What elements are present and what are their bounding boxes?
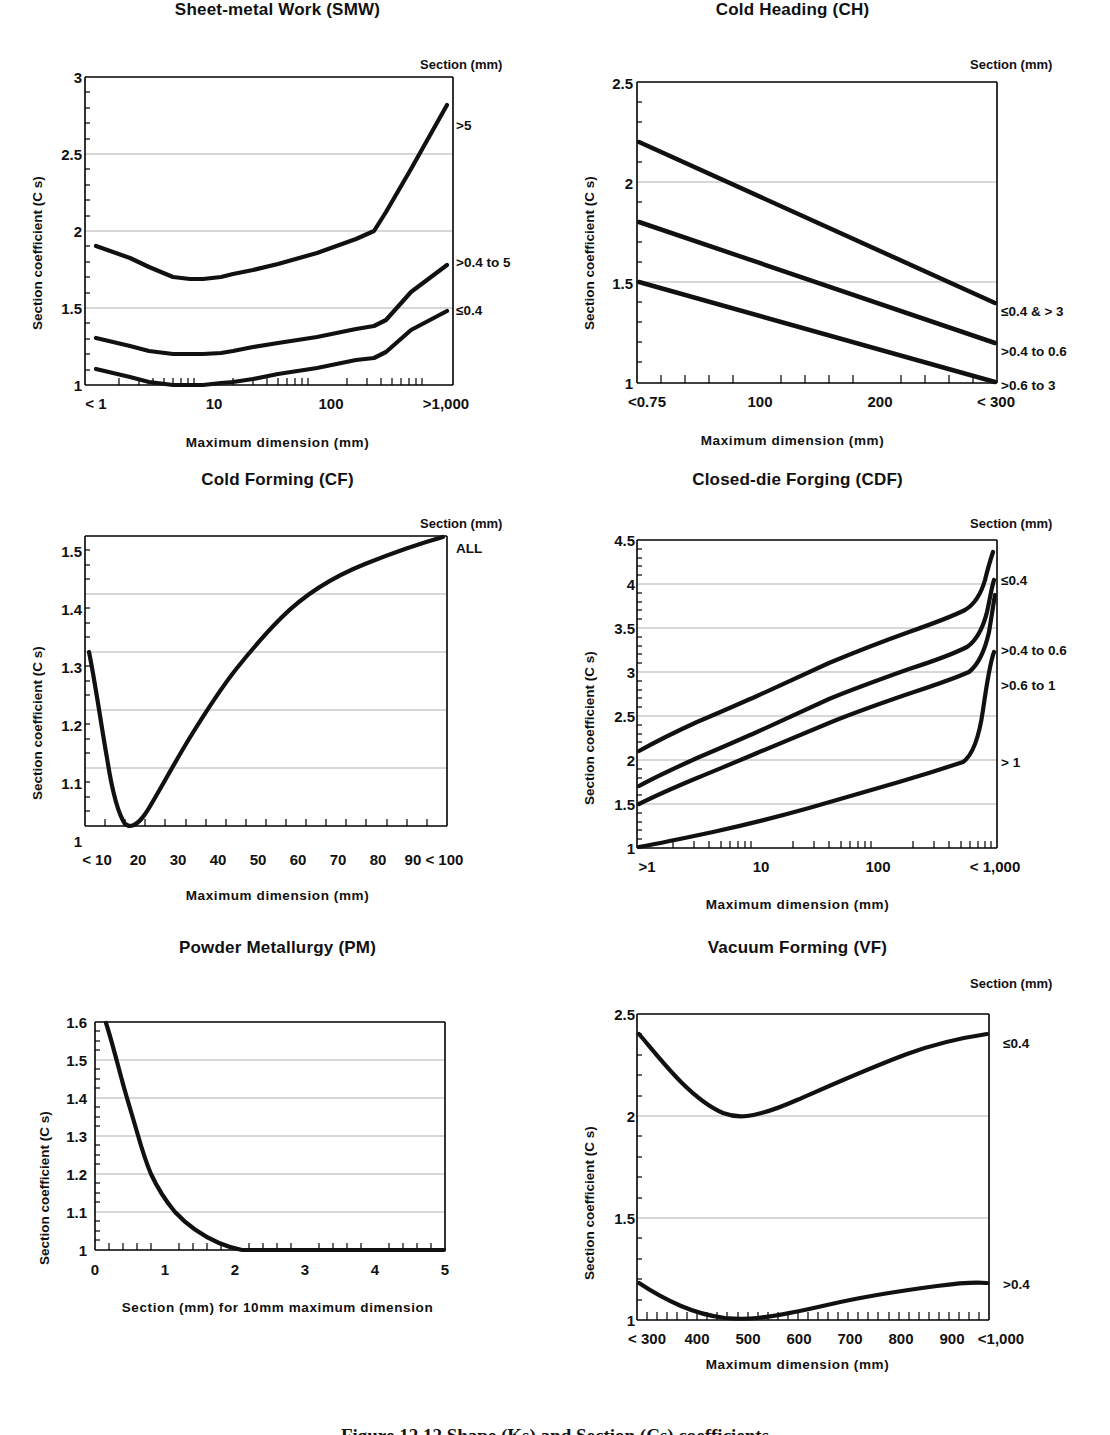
chart-title-cdf: Closed-die Forging (CDF): [520, 470, 1075, 490]
figure-caption: Figure 12.12 Shape (Ks) and Section (Cs)…: [0, 1424, 1110, 1435]
series-label-ch-2: >0.6 to 3: [1001, 378, 1055, 393]
y-tick-pm-5: 1.5: [55, 1052, 87, 1069]
y-axis-label-pm: Section coefficient (C s): [37, 1111, 52, 1265]
x-axis-label-cf: Maximum dimension (mm): [0, 888, 555, 903]
x-tick-cdf-3: < 1,000: [970, 858, 1020, 875]
y-axis-label-smw: Section coefficient (C s): [30, 176, 45, 330]
chart-panel-smw: Sheet-metal Work (SMW) Section coefficie…: [0, 0, 555, 470]
chart-title-smw: Sheet-metal Work (SMW): [0, 0, 555, 20]
y-tick-cdf-3: 2.5: [601, 708, 635, 725]
x-tick-cf-6: 70: [330, 851, 347, 868]
y-tick-cdf-7: 4.5: [601, 532, 635, 549]
y-tick-cdf-6: 4: [601, 576, 635, 593]
series-label-smw-2: ≤0.4: [456, 303, 482, 318]
plot-area-cf: [85, 536, 447, 826]
section-header-smw: Section (mm): [420, 57, 502, 72]
plot-area-smw: [85, 77, 453, 385]
x-tick-vf-2: 500: [735, 1330, 760, 1347]
chart-title-ch: Cold Heading (CH): [515, 0, 1070, 20]
chart-title-pm: Powder Metallurgy (PM): [0, 938, 555, 958]
y-tick-vf-2: 2: [601, 1108, 635, 1125]
y-tick-cdf-2: 2: [601, 752, 635, 769]
x-tick-cdf-1: 10: [753, 858, 770, 875]
x-tick-vf-6: 900: [939, 1330, 964, 1347]
x-tick-cf-5: 60: [290, 851, 307, 868]
x-tick-cf-4: 50: [250, 851, 267, 868]
x-axis-label-pm: Section (mm) for 10mm maximum dimension: [0, 1300, 555, 1315]
x-tick-cf-7: 80: [370, 851, 387, 868]
x-tick-pm-5: 5: [441, 1261, 449, 1278]
x-tick-vf-3: 600: [786, 1330, 811, 1347]
y-tick-vf-3: 2.5: [601, 1006, 635, 1023]
x-tick-smw-3: >1,000: [423, 395, 469, 412]
x-tick-pm-0: 0: [91, 1261, 99, 1278]
y-tick-pm-1: 1.1: [55, 1204, 87, 1221]
y-tick-pm-4: 1.4: [55, 1090, 87, 1107]
plot-area-ch: [637, 82, 997, 383]
x-axis-label-ch: Maximum dimension (mm): [515, 433, 1070, 448]
chart-title-vf: Vacuum Forming (VF): [520, 938, 1075, 958]
y-tick-vf-0: 1: [601, 1312, 635, 1329]
plot-area-cdf: [637, 540, 997, 848]
x-tick-vf-7: <1,000: [978, 1330, 1024, 1347]
plot-area-vf: [637, 1014, 989, 1320]
x-tick-vf-4: 700: [837, 1330, 862, 1347]
series-label-ch-0: ≤0.4 & > 3: [1001, 304, 1064, 319]
y-tick-vf-1: 1.5: [601, 1210, 635, 1227]
y-tick-smw-0: 1: [50, 377, 82, 394]
y-tick-cf-1: 1.1: [50, 775, 82, 792]
plot-area-pm: [95, 1022, 445, 1250]
y-tick-pm-0: 1: [55, 1242, 87, 1259]
series-label-ch-1: >0.4 to 0.6: [1001, 344, 1067, 359]
series-label-cf-0: ALL: [456, 541, 482, 556]
x-tick-ch-3: < 300: [977, 393, 1015, 410]
x-axis-label-smw: Maximum dimension (mm): [0, 435, 555, 450]
y-tick-cdf-5: 3.5: [601, 620, 635, 637]
x-tick-vf-5: 800: [888, 1330, 913, 1347]
y-tick-cf-3: 1.3: [50, 659, 82, 676]
x-tick-cf-1: 20: [130, 851, 147, 868]
y-tick-smw-1: 1.5: [50, 300, 82, 317]
y-tick-cf-5: 1.5: [50, 543, 82, 560]
y-tick-smw-3: 2.5: [50, 146, 82, 163]
series-label-cdf-0: ≤0.4: [1001, 573, 1027, 588]
y-tick-cdf-1: 1.5: [601, 796, 635, 813]
x-axis-label-cdf: Maximum dimension (mm): [520, 897, 1075, 912]
x-tick-smw-1: 10: [206, 395, 223, 412]
x-tick-pm-2: 2: [231, 1261, 239, 1278]
y-tick-cf-0: 1: [50, 833, 82, 850]
x-tick-cf-2: 30: [170, 851, 187, 868]
y-tick-cdf-4: 3: [601, 664, 635, 681]
x-tick-smw-0: < 1: [85, 395, 106, 412]
chart-panel-pm: Powder Metallurgy (PM) Section coefficie…: [0, 930, 555, 1400]
x-tick-ch-2: 200: [867, 393, 892, 410]
series-label-cdf-1: >0.4 to 0.6: [1001, 643, 1067, 658]
y-axis-label-cf: Section coefficient (C s): [30, 646, 45, 800]
series-label-cdf-3: > 1: [1001, 755, 1020, 770]
y-tick-pm-2: 1.2: [55, 1166, 87, 1183]
chart-panel-cdf: Closed-die Forging (CDF) Section coeffic…: [555, 470, 1110, 930]
series-label-vf-0: ≤0.4: [1003, 1036, 1029, 1051]
y-tick-pm-6: 1.6: [55, 1014, 87, 1031]
y-tick-smw-2: 2: [50, 223, 82, 240]
x-tick-cf-8: 90 < 100: [405, 851, 464, 868]
section-header-cf: Section (mm): [420, 516, 502, 531]
chart-panel-cf: Cold Forming (CF) Section coefficient (C…: [0, 470, 555, 930]
y-tick-cf-2: 1.2: [50, 717, 82, 734]
x-tick-vf-1: 400: [684, 1330, 709, 1347]
y-tick-smw-4: 3: [50, 69, 82, 86]
y-tick-ch-2: 2: [601, 175, 633, 192]
y-tick-pm-3: 1.3: [55, 1128, 87, 1145]
chart-title-cf: Cold Forming (CF): [0, 470, 555, 490]
x-tick-ch-1: 100: [747, 393, 772, 410]
section-header-vf: Section (mm): [970, 976, 1052, 991]
x-tick-smw-2: 100: [318, 395, 343, 412]
series-label-vf-1: >0.4: [1003, 1277, 1030, 1292]
x-tick-cdf-2: 100: [865, 858, 890, 875]
x-tick-cf-3: 40: [210, 851, 227, 868]
x-tick-pm-3: 3: [301, 1261, 309, 1278]
y-axis-label-ch: Section coefficient (C s): [582, 176, 597, 330]
y-tick-cf-4: 1.4: [50, 601, 82, 618]
series-label-smw-1: >0.4 to 5: [456, 255, 510, 270]
y-tick-ch-1: 1.5: [601, 275, 633, 292]
